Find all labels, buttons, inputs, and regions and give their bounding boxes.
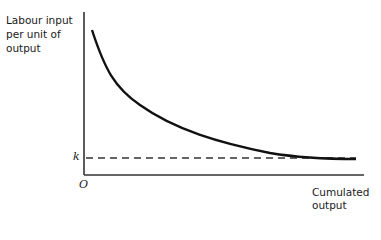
x-axis-label-line-1: Cumulated [312, 186, 369, 199]
x-axis-label-line-2: output [312, 199, 369, 212]
x-axis-label: Cumulated output [312, 186, 369, 212]
learning-curve [92, 30, 356, 159]
origin-label: O [79, 178, 88, 191]
k-label: k [73, 150, 80, 163]
